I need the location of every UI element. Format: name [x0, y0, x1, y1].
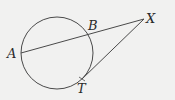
label-b: B: [87, 18, 98, 33]
diagram-canvas: A B X T: [0, 0, 175, 100]
secant-line-ax: [21, 19, 144, 53]
label-t: T: [77, 81, 87, 96]
label-x: X: [145, 11, 156, 26]
label-a: A: [6, 46, 16, 61]
